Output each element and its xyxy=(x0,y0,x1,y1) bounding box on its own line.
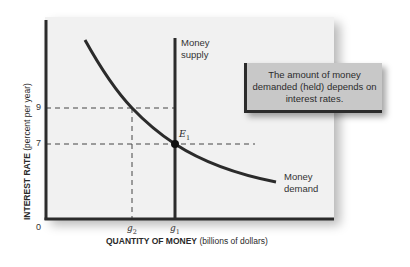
y-axis-label: INTEREST RATE (percent per year) xyxy=(22,83,32,220)
annotation-text: The amount of money demanded (held) depe… xyxy=(251,69,378,105)
x-tick-g1: g1 xyxy=(170,223,180,236)
y-tick-7: 7 xyxy=(36,138,41,148)
x-tick-g2: g2 xyxy=(127,223,137,236)
equilibrium-point xyxy=(171,140,179,148)
origin-label: 0 xyxy=(36,222,41,232)
money-supply-label: Money supply xyxy=(181,37,210,61)
money-demand-label: Money demand xyxy=(284,171,318,195)
annotation-callout: The amount of money demanded (held) depe… xyxy=(244,63,382,113)
y-tick-9: 9 xyxy=(36,102,41,112)
equilibrium-label: E1 xyxy=(179,128,190,142)
x-axis-label: QUANTITY OF MONEY (billions of dollars) xyxy=(106,236,268,246)
